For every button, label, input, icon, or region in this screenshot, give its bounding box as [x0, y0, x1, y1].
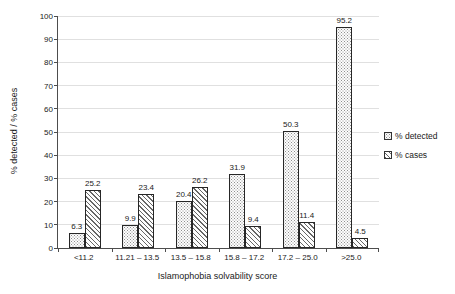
y-tick-label: 40	[0, 151, 53, 160]
y-tick-label: 70	[0, 82, 53, 91]
gridline	[58, 108, 379, 109]
x-tick-label: 17.2 – 25.0	[271, 253, 325, 262]
legend-item-cases: % cases	[384, 150, 438, 160]
y-tick-label: 60	[0, 105, 53, 114]
y-axis-tick	[54, 155, 58, 156]
bar-value-label: 4.5	[343, 227, 377, 236]
plot-area: 6.325.29.923.420.426.231.99.450.311.495.…	[57, 16, 379, 249]
bar-detected-1	[122, 225, 138, 248]
y-tick-label: 30	[0, 174, 53, 183]
bar-value-label: 50.3	[274, 120, 308, 129]
y-axis-labels: 0102030405060708090100	[0, 16, 53, 248]
bar-detected-2	[176, 201, 192, 248]
y-axis-tick	[54, 16, 58, 17]
legend: % detected % cases	[384, 131, 438, 169]
bar-detected-4	[283, 131, 299, 248]
y-axis-tick	[54, 132, 58, 133]
bar-value-label: 31.9	[220, 163, 254, 172]
y-tick-label: 100	[0, 12, 53, 21]
x-tick-label: 11.21 – 13.5	[111, 253, 165, 262]
bar-cases-4	[299, 222, 315, 248]
y-axis-tick	[54, 178, 58, 179]
legend-item-detected: % detected	[384, 131, 438, 141]
gridline	[58, 85, 379, 86]
y-axis-tick	[54, 201, 58, 202]
bar-value-label: 9.4	[236, 215, 270, 224]
bar-detected-5	[336, 27, 352, 248]
x-axis-tick	[112, 249, 113, 252]
gridline	[58, 155, 379, 156]
bar-cases-0	[85, 190, 101, 248]
x-tick-label: 13.5 – 15.8	[164, 253, 218, 262]
y-axis-tick	[54, 62, 58, 63]
x-axis-title: Islamophobia solvability score	[57, 271, 378, 281]
x-axis-tick	[165, 249, 166, 252]
gridline	[58, 224, 379, 225]
bar-cases-3	[245, 226, 261, 248]
gridline	[58, 201, 379, 202]
gridline	[58, 39, 379, 40]
legend-label-detected: % detected	[395, 131, 438, 141]
bar-detected-0	[69, 233, 85, 248]
bar-value-label: 23.4	[129, 183, 163, 192]
bar-detected-3	[229, 174, 245, 248]
x-axis-tick	[272, 249, 273, 252]
gridline	[58, 62, 379, 63]
x-axis-tick	[326, 249, 327, 252]
bar-value-label: 95.2	[327, 16, 361, 25]
bar-cases-1	[138, 194, 154, 248]
x-axis-tick	[219, 249, 220, 252]
y-axis-tick	[54, 224, 58, 225]
bar-value-label: 25.2	[76, 179, 110, 188]
cases-swatch-icon	[384, 151, 392, 159]
bar-cases-5	[352, 238, 368, 248]
bar-chart: % detected / % cases 0102030405060708090…	[0, 0, 455, 294]
y-tick-label: 80	[0, 58, 53, 67]
gridline	[58, 132, 379, 133]
y-tick-label: 20	[0, 198, 53, 207]
x-tick-label: >25.0	[325, 253, 379, 262]
x-tick-label: 15.8 – 17.2	[218, 253, 272, 262]
legend-label-cases: % cases	[395, 150, 427, 160]
x-axis-tick	[58, 249, 59, 252]
bar-value-label: 26.2	[183, 176, 217, 185]
bar-cases-2	[192, 187, 208, 248]
bar-value-label: 11.4	[290, 211, 324, 220]
detected-swatch-icon	[384, 132, 392, 140]
y-tick-label: 0	[0, 244, 53, 253]
x-axis-labels: <11.211.21 – 13.513.5 – 15.815.8 – 17.21…	[57, 253, 378, 263]
y-tick-label: 50	[0, 128, 53, 137]
y-tick-label: 10	[0, 221, 53, 230]
y-axis-tick	[54, 85, 58, 86]
y-tick-label: 90	[0, 35, 53, 44]
x-tick-label: <11.2	[57, 253, 111, 262]
x-axis-tick	[378, 249, 379, 252]
y-axis-tick	[54, 108, 58, 109]
y-axis-tick	[54, 39, 58, 40]
